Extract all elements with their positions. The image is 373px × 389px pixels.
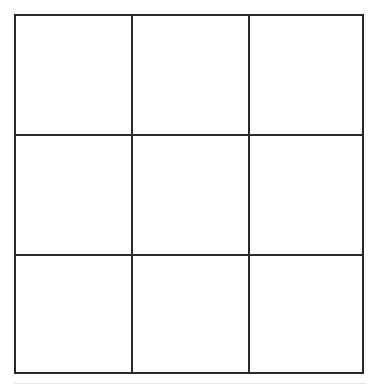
cell-2-2[interactable] <box>250 256 362 372</box>
tic-tac-toe-board <box>14 14 364 374</box>
cell-2-1[interactable] <box>133 256 250 372</box>
cell-1-2[interactable] <box>250 136 362 256</box>
cell-0-1[interactable] <box>133 16 250 136</box>
cell-0-0[interactable] <box>16 16 133 136</box>
cell-0-2[interactable] <box>250 16 362 136</box>
divider <box>14 383 366 384</box>
cell-1-0[interactable] <box>16 136 133 256</box>
cell-1-1[interactable] <box>133 136 250 256</box>
cell-2-0[interactable] <box>16 256 133 372</box>
